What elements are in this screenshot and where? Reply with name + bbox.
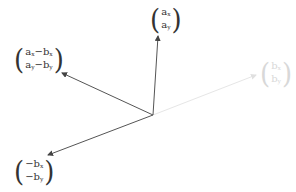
neg-b-x: −b [25, 158, 40, 169]
sub-x: x [278, 64, 281, 71]
neg-b-y: −b [25, 171, 40, 182]
label-vector-a-minus-b: ( ax−bx ay−by ) [14, 46, 64, 72]
vector-a-arrow [153, 36, 158, 115]
label-vector-neg-b: ( −bx −by ) [14, 158, 54, 184]
left-paren: ( [14, 157, 24, 186]
sub-x: x [40, 162, 43, 169]
sub-x: x [167, 10, 170, 17]
right-paren: ) [54, 45, 64, 74]
left-paren: ( [14, 45, 24, 74]
minus-b-y: −b [35, 59, 50, 70]
right-paren: ) [282, 59, 292, 88]
sub-y: y [49, 63, 52, 70]
vector-b-arrow [153, 75, 256, 115]
sub-y: y [40, 175, 43, 182]
vector-neg-b-arrow [48, 115, 153, 155]
sub-x: x [49, 50, 52, 57]
right-paren: ) [172, 5, 182, 34]
minus-b-x: −b [35, 46, 50, 57]
sub-y: y [167, 23, 170, 30]
label-vector-a: ( ax ay ) [150, 6, 182, 32]
left-paren: ( [260, 59, 270, 88]
sub-y: y [278, 77, 281, 84]
right-paren: ) [44, 157, 54, 186]
left-paren: ( [150, 5, 160, 34]
vector-a-minus-b-arrow [62, 73, 153, 115]
label-vector-b: ( bx by ) [260, 60, 292, 86]
